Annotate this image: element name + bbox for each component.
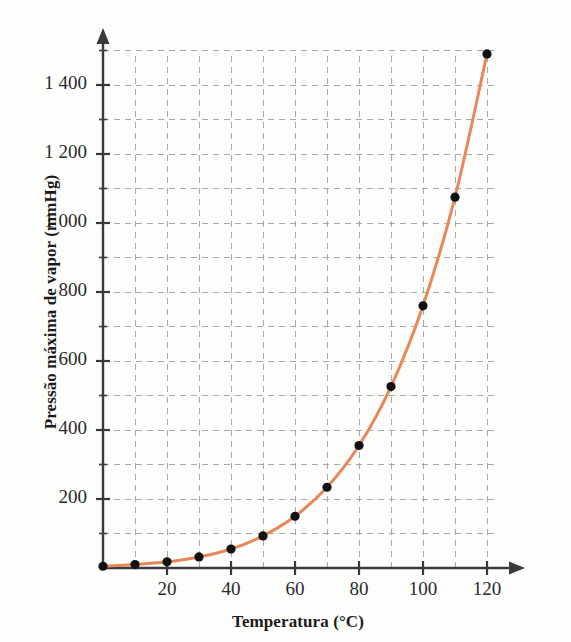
vapor-pressure-chart-figure: 2004006008001 0001 2001 400 204060801001… (0, 0, 571, 642)
x-axis-tick-label: 80 (329, 578, 389, 600)
axis-lines (97, 28, 526, 575)
y-axis-tick-label: 1 400 (17, 72, 87, 94)
x-axis-tick-label: 40 (201, 578, 261, 600)
y-axis-tick-label: 200 (17, 486, 87, 508)
x-axis-tick-label: 60 (265, 578, 325, 600)
y-axis-tick-label: 1 200 (17, 141, 87, 163)
grid-lines (103, 51, 495, 569)
x-axis-tick-label: 120 (457, 578, 517, 600)
x-axis-title: Temperatura (°C) (103, 612, 493, 632)
x-axis-tick-label: 100 (393, 578, 453, 600)
x-axis-tick-label: 20 (137, 578, 197, 600)
chart-plot-area (0, 0, 571, 642)
axis-ticks (96, 51, 487, 576)
y-axis-title: Pressão máxima de vapor (mmHg) (41, 172, 61, 432)
